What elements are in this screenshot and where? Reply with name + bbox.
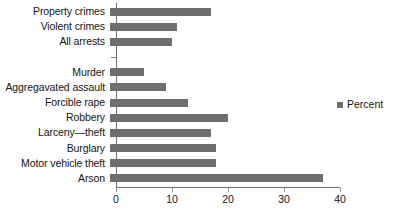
bar-track bbox=[110, 19, 340, 34]
bar-track bbox=[110, 156, 340, 171]
bar bbox=[110, 8, 211, 16]
category-row: Forcible rape bbox=[0, 95, 340, 110]
bar-track bbox=[110, 4, 340, 19]
bar bbox=[110, 144, 216, 152]
x-axis-tick-label: 40 bbox=[325, 193, 355, 205]
category-label: Larceny—theft bbox=[0, 127, 110, 138]
category-row: Violent crimes bbox=[0, 19, 340, 34]
bar bbox=[110, 83, 166, 91]
category-row: Burglary bbox=[0, 141, 340, 156]
bar-track bbox=[110, 171, 340, 186]
bar bbox=[110, 114, 228, 122]
category-label: Burglary bbox=[0, 143, 110, 154]
category-row: Aggregavated assault bbox=[0, 80, 340, 95]
bar bbox=[110, 159, 216, 167]
x-axis-tick-label: 20 bbox=[213, 193, 243, 205]
x-axis-tick-label: 0 bbox=[101, 193, 131, 205]
category-row bbox=[0, 50, 340, 65]
legend-label-percent: Percent bbox=[347, 99, 383, 110]
bar-track bbox=[110, 110, 340, 125]
category-rows: Property crimesViolent crimesAll arrests… bbox=[0, 4, 340, 186]
bar-track bbox=[110, 141, 340, 156]
category-row: Murder bbox=[0, 65, 340, 80]
x-axis-tick bbox=[116, 188, 117, 192]
x-axis-tick-label: 30 bbox=[269, 193, 299, 205]
bar-track bbox=[110, 125, 340, 140]
bar bbox=[110, 38, 172, 46]
legend-swatch-percent bbox=[337, 102, 343, 108]
x-axis-tick bbox=[228, 188, 229, 192]
category-label: Property crimes bbox=[0, 6, 110, 17]
category-label: Violent crimes bbox=[0, 21, 110, 32]
category-row: Motor vehicle theft bbox=[0, 156, 340, 171]
bar bbox=[110, 174, 323, 182]
category-row: Larceny—theft bbox=[0, 125, 340, 140]
bar-chart: Property crimesViolent crimesAll arrests… bbox=[0, 0, 398, 214]
category-label: Murder bbox=[0, 67, 110, 78]
bar bbox=[110, 23, 177, 31]
bar-track bbox=[110, 34, 340, 49]
category-row: All arrests bbox=[0, 34, 340, 49]
bar-track bbox=[110, 80, 340, 95]
category-label: Robbery bbox=[0, 112, 110, 123]
bar-track bbox=[110, 50, 340, 65]
category-row: Robbery bbox=[0, 110, 340, 125]
category-row: Property crimes bbox=[0, 4, 340, 19]
chart-legend: Percent bbox=[337, 99, 383, 110]
x-axis-tick bbox=[340, 188, 341, 192]
bar-track bbox=[110, 95, 340, 110]
bar bbox=[110, 99, 188, 107]
x-axis-tick bbox=[284, 188, 285, 192]
x-axis-tick-label: 10 bbox=[157, 193, 187, 205]
x-axis-tick bbox=[172, 188, 173, 192]
bar bbox=[110, 129, 211, 137]
category-label: Aggregavated assault bbox=[0, 82, 110, 93]
bar-track bbox=[110, 65, 340, 80]
y-axis-line bbox=[116, 3, 117, 187]
category-label: All arrests bbox=[0, 36, 110, 47]
category-label: Forcible rape bbox=[0, 97, 110, 108]
category-row: Arson bbox=[0, 171, 340, 186]
category-label: Motor vehicle theft bbox=[0, 158, 110, 169]
category-label: Arson bbox=[0, 173, 110, 184]
